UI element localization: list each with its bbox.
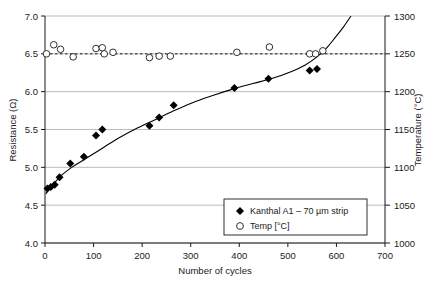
legend-frame [224, 199, 367, 235]
x-tick-label: 500 [280, 250, 296, 261]
data-point-temp [43, 51, 50, 58]
data-point-temp [146, 54, 153, 61]
chart-figure: 0100200300400500600700 4.04.55.05.56.06.… [0, 0, 431, 284]
x-tick-label: 200 [134, 250, 150, 261]
chart-background [0, 0, 431, 284]
x-tick-label: 100 [86, 250, 102, 261]
y2-tick-label: 1050 [394, 200, 415, 211]
x-tick-label: 300 [183, 250, 199, 261]
y2-tick-label: 1250 [394, 48, 415, 59]
data-point-temp [70, 54, 77, 61]
y-tick-label: 6.0 [25, 86, 38, 97]
x-axis-title: Number of cycles [178, 265, 252, 276]
data-point-temp [93, 45, 100, 52]
x-tick-label: 600 [328, 250, 344, 261]
data-point-temp [101, 51, 108, 58]
data-point-temp [110, 49, 117, 56]
x-tick-label: 700 [377, 250, 393, 261]
x-tick-label: 0 [42, 250, 47, 261]
x-tick-label: 400 [231, 250, 247, 261]
y-tick-label: 4.0 [25, 238, 38, 249]
data-point-temp [234, 49, 241, 56]
data-point-temp [50, 41, 57, 48]
data-point-temp [57, 46, 64, 53]
y-tick-label: 7.0 [25, 11, 38, 22]
y2-tick-label: 1300 [394, 11, 415, 22]
data-point-temp [167, 53, 174, 60]
data-point-temp [266, 44, 273, 51]
data-point-temp [312, 51, 319, 58]
y-tick-label: 6.5 [25, 48, 38, 59]
data-point-temp [99, 44, 106, 51]
y2-tick-label: 1000 [394, 238, 415, 249]
data-point-temp [320, 48, 327, 55]
legend-label-temp: Temp [°C] [250, 221, 290, 231]
y2-axis-title: Temperature (°C) [412, 94, 423, 167]
legend-label-resistance: Kanthal A1 – 70 µm strip [250, 206, 348, 216]
y-axis-title: Resistance (Ω) [7, 98, 18, 161]
y-tick-label: 5.0 [25, 162, 38, 173]
data-point-temp [156, 53, 163, 60]
legend: Kanthal A1 – 70 µm strip Temp [°C] [224, 199, 367, 235]
y-tick-label: 5.5 [25, 124, 38, 135]
resistance-temperature-chart: 0100200300400500600700 4.04.55.05.56.06.… [0, 0, 431, 284]
y-tick-label: 4.5 [25, 200, 38, 211]
